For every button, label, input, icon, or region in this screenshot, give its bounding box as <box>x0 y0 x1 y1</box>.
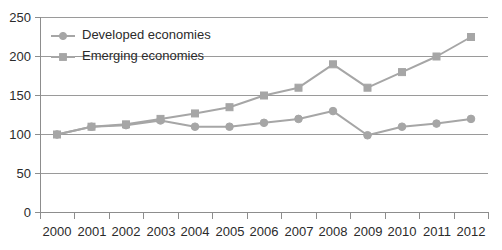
circle-marker-icon <box>53 131 61 139</box>
x-tick-label-2005: 2005 <box>216 224 245 239</box>
circle-marker-icon <box>433 120 441 128</box>
square-marker-icon <box>330 61 337 68</box>
square-marker-icon <box>261 92 268 99</box>
x-axis: 2000 2001 2002 2003 2004 2005 2006 2007 … <box>40 212 489 239</box>
x-tick-label-2001: 2001 <box>78 224 107 239</box>
chart-canvas: 250 200 150 100 50 0 2000 2001 <box>0 0 502 250</box>
circle-marker-icon <box>398 123 406 131</box>
x-tick-label-2011: 2011 <box>423 224 451 239</box>
y-tick-label-200: 200 <box>9 49 31 64</box>
chart-legend: Developed economies Emerging economies <box>51 27 211 63</box>
x-tick-label-2000: 2000 <box>43 224 72 239</box>
circle-marker-icon <box>59 32 66 39</box>
legend-item-emerging-economies[interactable]: Emerging economies <box>51 48 205 63</box>
legend-item-developed-economies[interactable]: Developed economies <box>51 27 211 42</box>
square-marker-icon <box>295 84 302 91</box>
square-marker-icon <box>468 34 475 41</box>
square-marker-icon <box>192 110 199 117</box>
y-tick-label-250: 250 <box>9 10 31 25</box>
x-tick-label-2010: 2010 <box>388 224 417 239</box>
circle-marker-icon <box>191 123 199 131</box>
x-tick-label-2003: 2003 <box>147 224 176 239</box>
legend-label-emerging-economies: Emerging economies <box>82 48 205 63</box>
y-tick-label-100: 100 <box>9 127 31 142</box>
x-tick-label-2004: 2004 <box>181 224 210 239</box>
x-tick-label-2008: 2008 <box>319 224 348 239</box>
y-tick-label-150: 150 <box>9 88 31 103</box>
circle-marker-icon <box>364 131 372 139</box>
circle-marker-icon <box>329 107 337 115</box>
circle-marker-icon <box>467 115 475 123</box>
square-marker-icon <box>60 54 67 61</box>
x-tick-label-2002: 2002 <box>112 224 141 239</box>
square-marker-icon <box>226 104 233 111</box>
y-tick-label-0: 0 <box>24 205 31 220</box>
circle-marker-icon <box>122 121 130 129</box>
square-marker-icon <box>399 69 406 76</box>
x-tick-label-2009: 2009 <box>354 224 383 239</box>
line-chart: 250 200 150 100 50 0 2000 2001 <box>0 0 502 250</box>
circle-marker-icon <box>226 123 234 131</box>
x-tick-label-2012: 2012 <box>457 224 486 239</box>
square-marker-icon <box>433 53 440 60</box>
x-tick-label-2007: 2007 <box>285 224 314 239</box>
legend-label-developed-economies: Developed economies <box>82 27 211 42</box>
x-tick-label-2006: 2006 <box>250 224 279 239</box>
y-tick-label-50: 50 <box>17 166 31 181</box>
circle-marker-icon <box>88 123 96 131</box>
circle-marker-icon <box>260 119 268 127</box>
y-axis: 250 200 150 100 50 0 <box>9 10 40 220</box>
circle-marker-icon <box>157 117 165 125</box>
square-marker-icon <box>364 84 371 91</box>
circle-marker-icon <box>295 115 303 123</box>
